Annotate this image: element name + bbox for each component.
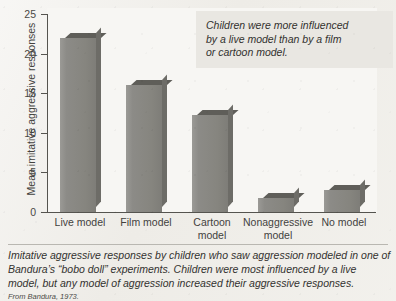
chart-annotation-callout: Children were more influencedby a live m… — [196, 11, 393, 68]
bar-cartoon-model — [192, 110, 233, 212]
bar-front-face — [126, 85, 162, 212]
caption-source: From Bandura, 1973. — [8, 292, 386, 301]
bar-front-face — [324, 190, 360, 212]
x-axis-label-line: No model — [301, 216, 387, 229]
bandura-bobo-doll-figure: 0510152025 Mean imitative aggressive res… — [0, 0, 396, 301]
bar-side-face — [360, 179, 365, 207]
annotation-line: by a live model than by a film — [206, 33, 384, 47]
caption-text: Imitative aggressive responses by childr… — [8, 248, 386, 290]
bar-side-face — [162, 75, 167, 207]
bar-nonaggressive-model — [258, 193, 299, 212]
caption-line: Bandura’s “bobo doll” experiments. Child… — [8, 262, 386, 276]
bar-front-face — [258, 198, 294, 212]
x-axis-label-line: model — [235, 229, 321, 242]
caption-line: model, but any model of aggression incre… — [8, 276, 386, 290]
bar-side-face — [294, 187, 299, 207]
caption-line: Imitative aggressive responses by childr… — [8, 248, 386, 262]
figure-caption: Imitative aggressive responses by childr… — [8, 248, 386, 301]
x-axis-label: No model — [301, 216, 387, 229]
bar-side-face — [96, 27, 101, 207]
bar-front-face — [60, 38, 96, 212]
y-axis-title: Mean imitative aggressive responses — [25, 14, 37, 204]
bar-no-model — [324, 185, 365, 212]
bar-film-model — [126, 80, 167, 212]
bar-side-face — [228, 104, 233, 207]
y-tick-label: 0 — [10, 207, 36, 218]
annotation-line: Children were more influenced — [206, 19, 384, 33]
bar-live-model — [60, 33, 101, 212]
bar-front-face — [192, 115, 228, 212]
annotation-line: or cartoon model. — [206, 46, 384, 60]
caption-divider — [8, 244, 388, 245]
